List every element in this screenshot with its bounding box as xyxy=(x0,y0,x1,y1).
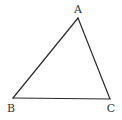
edge-ab xyxy=(13,18,78,98)
vertex-label-a: A xyxy=(73,3,83,16)
triangle-diagram: A B C xyxy=(0,0,122,120)
edge-bc xyxy=(13,98,110,99)
edge-ca xyxy=(78,18,110,99)
vertex-label-c: C xyxy=(107,102,115,115)
vertex-label-b: B xyxy=(7,102,15,115)
triangle-edges xyxy=(13,18,110,99)
